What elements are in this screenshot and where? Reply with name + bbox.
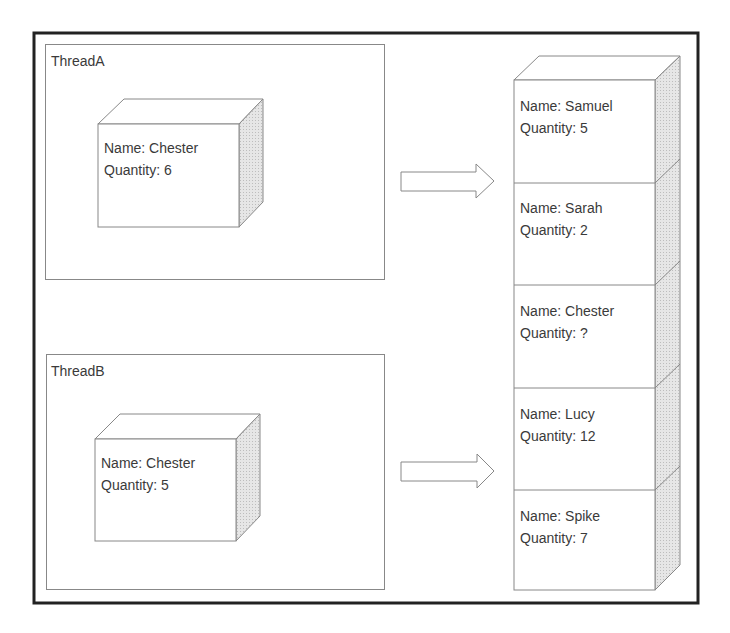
record-quantity: Quantity: 7 bbox=[520, 528, 600, 548]
record-name: Name: Spike bbox=[520, 506, 600, 526]
arrow-a-icon bbox=[401, 164, 494, 198]
record-name: Name: Chester bbox=[520, 301, 614, 321]
stack-item: Name: Samuel Quantity: 5 bbox=[520, 96, 613, 138]
record-quantity: Quantity: 5 bbox=[520, 118, 613, 138]
arrow-b-icon bbox=[401, 454, 494, 488]
thread-a-record: Name: Chester Quantity: 6 bbox=[104, 138, 198, 180]
thread-b-record: Name: Chester Quantity: 5 bbox=[101, 453, 195, 495]
record-name: Name: Chester bbox=[104, 138, 198, 158]
record-name: Name: Chester bbox=[101, 453, 195, 473]
thread-a-title: ThreadA bbox=[51, 53, 105, 69]
stack-item: Name: Sarah Quantity: 2 bbox=[520, 198, 602, 240]
stack-item: Name: Lucy Quantity: 12 bbox=[520, 404, 596, 446]
record-quantity: Quantity: 12 bbox=[520, 426, 596, 446]
record-quantity: Quantity: ? bbox=[520, 323, 614, 343]
record-quantity: Quantity: 6 bbox=[104, 160, 198, 180]
record-quantity: Quantity: 2 bbox=[520, 220, 602, 240]
stack-item: Name: Chester Quantity: ? bbox=[520, 301, 614, 343]
thread-b-title: ThreadB bbox=[51, 363, 105, 379]
record-name: Name: Samuel bbox=[520, 96, 613, 116]
diagram-canvas bbox=[0, 0, 730, 633]
record-name: Name: Sarah bbox=[520, 198, 602, 218]
stack-item: Name: Spike Quantity: 7 bbox=[520, 506, 600, 548]
record-quantity: Quantity: 5 bbox=[101, 475, 195, 495]
record-name: Name: Lucy bbox=[520, 404, 596, 424]
